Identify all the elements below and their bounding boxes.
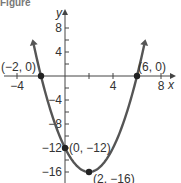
x-tick-label: −4 — [10, 79, 24, 93]
y-tick-label: −12 — [42, 141, 63, 155]
data-point-label: (6, 0) — [138, 60, 166, 74]
figure-caption: Figure — [0, 0, 31, 8]
y-tick-label: −4 — [48, 93, 62, 107]
y-axis-label: y — [55, 6, 63, 20]
data-point — [62, 145, 68, 151]
parabola-chart: Figure xy −44884−4−8−12−16 (−2, 0)(6, 0)… — [0, 0, 181, 183]
x-tick-label: 4 — [110, 79, 117, 93]
curve-right-arrow-icon — [140, 39, 148, 46]
data-point-label: (2, −16) — [93, 172, 135, 183]
data-point-label: (−2, 0) — [1, 60, 36, 74]
data-point — [38, 73, 44, 79]
data-point — [86, 169, 92, 175]
x-tick-label: 8 — [158, 79, 165, 93]
y-tick-label: 4 — [55, 45, 62, 59]
y-tick-label: 8 — [55, 21, 62, 35]
data-point-label: (0, −12) — [69, 141, 111, 155]
curve-left-arrow-icon — [30, 39, 38, 46]
y-axis-arrow-icon — [62, 9, 68, 15]
axes: xy — [4, 6, 176, 183]
points-layer: (−2, 0)(6, 0)(0, −12)(2, −16) — [1, 60, 166, 183]
x-axis-label: x — [167, 78, 175, 92]
y-tick-label: −16 — [42, 165, 63, 179]
